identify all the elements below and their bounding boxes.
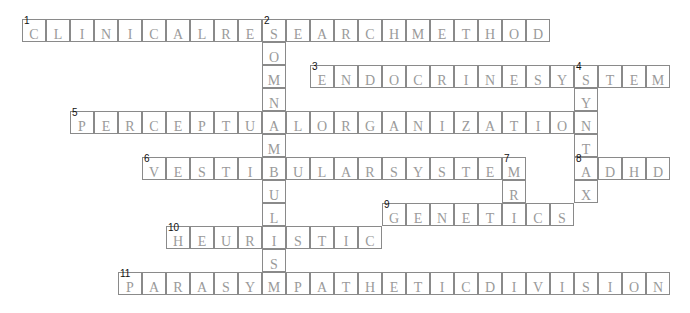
crossword-cell[interactable]: S (526, 65, 550, 88)
crossword-cell[interactable]: N (574, 111, 598, 134)
crossword-cell[interactable]: I (334, 226, 358, 249)
crossword-cell[interactable]: D (358, 65, 382, 88)
crossword-cell[interactable]: S (214, 272, 238, 295)
crossword-cell[interactable]: L (310, 157, 334, 180)
crossword-cell[interactable]: S (262, 249, 286, 272)
crossword-cell[interactable]: I (118, 19, 142, 42)
crossword-cell[interactable]: D (526, 19, 550, 42)
crossword-cell[interactable]: O (550, 111, 574, 134)
crossword-cell[interactable]: C (358, 226, 382, 249)
crossword-cell[interactable]: A (310, 19, 334, 42)
crossword-cell[interactable]: N (406, 111, 430, 134)
crossword-cell[interactable]: 4S (574, 65, 598, 88)
crossword-cell[interactable]: A (142, 272, 166, 295)
crossword-cell[interactable]: G (358, 111, 382, 134)
crossword-cell[interactable]: 9G (382, 203, 406, 226)
crossword-cell[interactable]: E (622, 65, 646, 88)
crossword-cell[interactable]: O (262, 42, 286, 65)
crossword-cell[interactable]: H (478, 19, 502, 42)
crossword-cell[interactable]: R (502, 180, 526, 203)
crossword-cell[interactable]: T (310, 226, 334, 249)
crossword-cell[interactable]: I (430, 111, 454, 134)
crossword-cell[interactable]: H (622, 157, 646, 180)
crossword-cell[interactable]: E (382, 272, 406, 295)
crossword-cell[interactable]: E (478, 157, 502, 180)
crossword-cell[interactable]: R (430, 65, 454, 88)
crossword-cell[interactable]: B (262, 157, 286, 180)
crossword-cell[interactable]: A (478, 111, 502, 134)
crossword-cell[interactable]: Y (238, 272, 262, 295)
crossword-cell[interactable]: T (454, 157, 478, 180)
crossword-cell[interactable]: I (502, 203, 526, 226)
crossword-cell[interactable]: T (214, 111, 238, 134)
crossword-cell[interactable]: T (454, 19, 478, 42)
crossword-cell[interactable]: U (214, 226, 238, 249)
crossword-cell[interactable]: T (334, 272, 358, 295)
crossword-cell[interactable]: S (430, 157, 454, 180)
crossword-cell[interactable]: Y (550, 65, 574, 88)
crossword-cell[interactable]: T (214, 157, 238, 180)
crossword-cell[interactable]: S (286, 226, 310, 249)
crossword-cell[interactable]: L (286, 111, 310, 134)
crossword-cell[interactable]: R (334, 19, 358, 42)
crossword-cell[interactable]: E (166, 111, 190, 134)
crossword-cell[interactable]: O (622, 272, 646, 295)
crossword-cell[interactable]: M (262, 272, 286, 295)
crossword-cell[interactable]: I (430, 272, 454, 295)
crossword-cell[interactable]: M (406, 19, 430, 42)
crossword-cell[interactable]: C (358, 19, 382, 42)
crossword-cell[interactable]: A (382, 111, 406, 134)
crossword-cell[interactable]: H (382, 19, 406, 42)
crossword-cell[interactable]: E (94, 111, 118, 134)
crossword-cell[interactable]: R (166, 272, 190, 295)
crossword-cell[interactable]: D (478, 272, 502, 295)
crossword-cell[interactable]: L (262, 203, 286, 226)
crossword-cell[interactable]: D (598, 157, 622, 180)
crossword-cell[interactable]: S (550, 203, 574, 226)
crossword-cell[interactable]: V (526, 272, 550, 295)
crossword-cell[interactable]: T (478, 203, 502, 226)
crossword-cell[interactable]: I (598, 272, 622, 295)
crossword-cell[interactable]: I (550, 272, 574, 295)
crossword-cell[interactable]: T (502, 111, 526, 134)
crossword-cell[interactable]: 3E (310, 65, 334, 88)
crossword-cell[interactable]: R (214, 19, 238, 42)
crossword-cell[interactable]: Z (454, 111, 478, 134)
crossword-cell[interactable]: U (238, 111, 262, 134)
crossword-cell[interactable]: U (262, 180, 286, 203)
crossword-cell[interactable]: S (190, 157, 214, 180)
crossword-cell[interactable]: 10H (166, 226, 190, 249)
crossword-cell[interactable]: N (646, 272, 670, 295)
crossword-cell[interactable]: R (238, 226, 262, 249)
crossword-cell[interactable]: E (166, 157, 190, 180)
crossword-cell[interactable]: I (454, 65, 478, 88)
crossword-cell[interactable]: A (190, 272, 214, 295)
crossword-cell[interactable]: R (118, 111, 142, 134)
crossword-cell[interactable]: I (502, 272, 526, 295)
crossword-cell[interactable]: A (334, 157, 358, 180)
crossword-cell[interactable]: 1C (22, 19, 46, 42)
crossword-cell[interactable]: I (526, 111, 550, 134)
crossword-cell[interactable]: N (478, 65, 502, 88)
crossword-cell[interactable]: Y (406, 157, 430, 180)
crossword-cell[interactable]: E (502, 65, 526, 88)
crossword-cell[interactable]: E (238, 19, 262, 42)
crossword-cell[interactable]: 11P (118, 272, 142, 295)
crossword-cell[interactable]: N (334, 65, 358, 88)
crossword-cell[interactable]: R (334, 111, 358, 134)
crossword-cell[interactable]: A (262, 111, 286, 134)
crossword-cell[interactable]: 7M (502, 157, 526, 180)
crossword-cell[interactable]: C (142, 19, 166, 42)
crossword-cell[interactable]: P (286, 272, 310, 295)
crossword-cell[interactable]: S (382, 157, 406, 180)
crossword-cell[interactable]: N (430, 203, 454, 226)
crossword-cell[interactable]: C (406, 65, 430, 88)
crossword-cell[interactable]: E (454, 203, 478, 226)
crossword-cell[interactable]: A (310, 272, 334, 295)
crossword-cell[interactable]: X (574, 180, 598, 203)
crossword-cell[interactable]: P (190, 111, 214, 134)
crossword-cell[interactable]: M (262, 65, 286, 88)
crossword-cell[interactable]: D (646, 157, 670, 180)
crossword-cell[interactable]: L (190, 19, 214, 42)
crossword-cell[interactable]: N (262, 88, 286, 111)
